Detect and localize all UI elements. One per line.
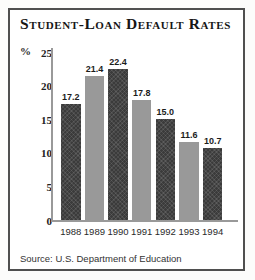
y-tick-label-10: 10 [30,148,52,159]
y-tick-label-20: 20 [30,81,52,92]
y-tick-label-5: 5 [30,182,52,193]
x-axis-label-1994: 1994 [197,226,229,238]
bar-1993 [179,142,199,220]
x-axis-line [51,220,238,222]
bar-value-label-1992: 15.0 [149,107,181,118]
figure-page: Student-Loan Default Rates % 0510152025 … [0,0,255,280]
bar-value-label-1988: 17.2 [55,92,87,103]
y-tick-label-15: 15 [30,115,52,126]
bar-value-label-1991: 17.8 [126,88,158,99]
bar-1991 [132,100,152,220]
y-axis-line [51,48,53,221]
source-note: Source: U.S. Department of Education [20,253,182,264]
chart-title: Student-Loan Default Rates [20,15,231,33]
bar-1988 [61,104,81,220]
bar-1994 [203,148,223,220]
y-tick-label-0: 0 [30,216,52,227]
y-tick-label-25: 25 [30,48,52,59]
bar-value-label-1990: 22.4 [102,57,134,68]
bar-value-label-1994: 10.7 [197,136,229,147]
bar-1989 [85,76,105,220]
chart-frame: Student-Loan Default Rates % 0510152025 … [8,8,245,271]
